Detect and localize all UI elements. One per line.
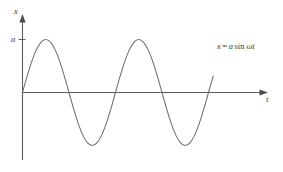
amplitude-tick-label: a: [11, 35, 15, 44]
equation-time-variable: t: [252, 41, 254, 51]
x-axis-label: t: [266, 95, 269, 104]
equation-sine-function: sin: [233, 41, 245, 51]
y-axis-label: x: [14, 7, 18, 16]
plot-canvas: [0, 0, 283, 172]
sine-wave-figure: x a t x=asinωt: [0, 0, 283, 172]
equation-annotation: x=asinωt: [217, 42, 255, 51]
equation-equals-sign: =: [221, 41, 229, 51]
y-axis-arrowhead: [19, 14, 25, 23]
